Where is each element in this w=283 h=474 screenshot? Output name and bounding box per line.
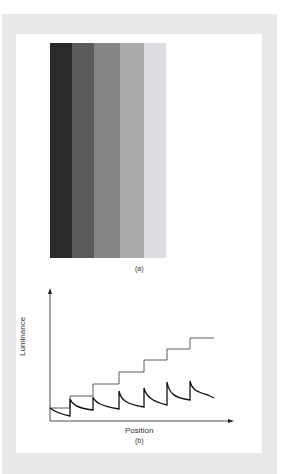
y-axis-label: Luminance xyxy=(18,317,27,356)
panel-b-label: (b) xyxy=(135,437,144,444)
x-axis-label: Position xyxy=(125,426,153,435)
